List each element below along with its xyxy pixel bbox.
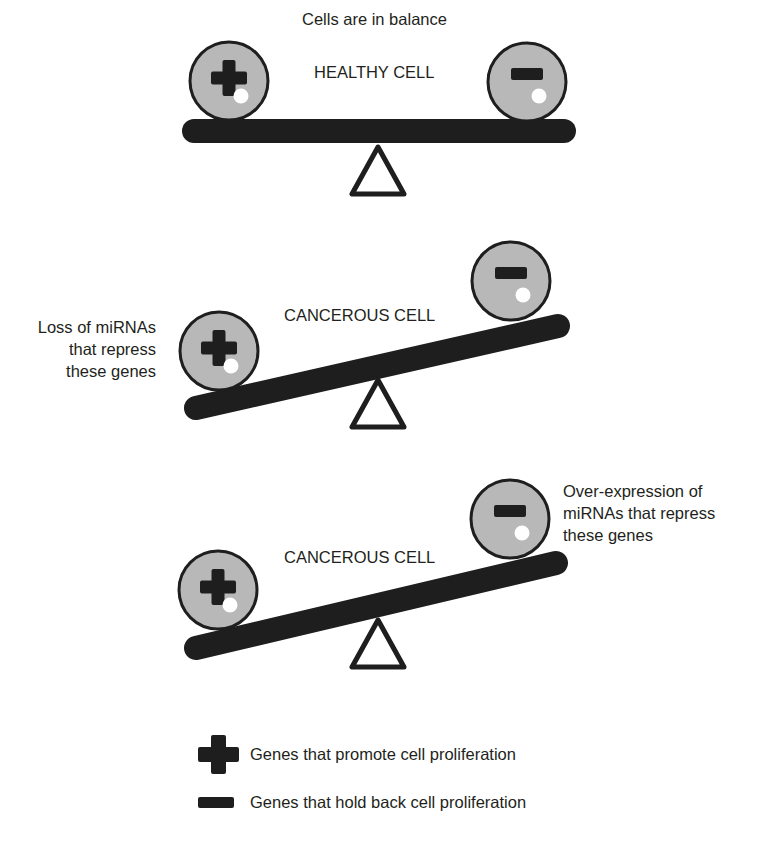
- plus-icon: [179, 551, 257, 629]
- plus-icon: [180, 312, 258, 390]
- legend-minus-icon: [198, 797, 234, 808]
- fulcrum-triangle: [352, 380, 404, 427]
- diagram-title: Cells are in balance: [302, 9, 447, 30]
- annotation-overexpression-line3: these genes: [563, 525, 653, 546]
- annotation-loss-line3: these genes: [66, 361, 156, 382]
- seesaw-diagram: [0, 0, 771, 844]
- panel-label-healthy: HEALTHY CELL: [314, 62, 434, 83]
- minus-icon: [472, 242, 550, 320]
- minus-icon: [488, 43, 566, 121]
- legend-label-promote: Genes that promote cell proliferation: [250, 744, 516, 765]
- panel-cancerous-loss: [180, 242, 558, 427]
- panel-cancerous-overexpression: [179, 480, 556, 667]
- minus-icon: [471, 480, 549, 558]
- legend-plus-icon: [198, 735, 239, 774]
- legend-label-hold-back: Genes that hold back cell proliferation: [250, 792, 526, 813]
- fulcrum-triangle: [352, 620, 404, 667]
- fulcrum-triangle: [352, 147, 404, 194]
- annotation-overexpression-line1: Over-expression of: [563, 481, 702, 502]
- annotation-loss-line1: Loss of miRNAs: [38, 317, 156, 338]
- annotation-overexpression-line2: miRNAs that repress: [563, 503, 715, 524]
- plus-icon: [190, 42, 268, 120]
- annotation-loss-line2: that repress: [69, 339, 156, 360]
- panel-label-cancerous-2: CANCEROUS CELL: [284, 547, 435, 568]
- panel-label-cancerous-1: CANCEROUS CELL: [284, 305, 435, 326]
